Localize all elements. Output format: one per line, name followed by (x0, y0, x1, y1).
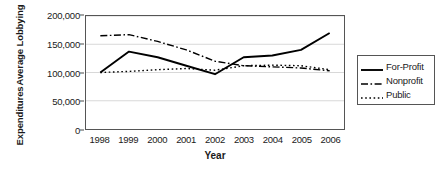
x-axis-title: Year (85, 150, 345, 161)
legend-key-dash-dot-icon (361, 75, 383, 85)
legend-item-for-profit: For-Profit (361, 59, 431, 73)
x-axis-tick-label: 2002 (205, 134, 225, 145)
legend-label: Public (386, 89, 411, 100)
x-axis-tick-label: 2001 (176, 134, 196, 145)
x-axis-tick-label: 1999 (118, 134, 138, 145)
x-axis-tick-label: 2003 (234, 134, 254, 145)
chart-legend: For-ProfitNonprofitPublic (357, 55, 435, 105)
x-axis-tick-label: 1998 (89, 134, 109, 145)
x-axis-tick-label: 2004 (263, 134, 283, 145)
legend-label: Nonprofit (386, 75, 423, 86)
legend-item-public: Public (361, 87, 431, 101)
x-axis-tick-label: 2000 (147, 134, 167, 145)
x-axis-tick-label: 2005 (292, 134, 312, 145)
x-axis-tick-label: 2006 (321, 134, 341, 145)
legend-label: For-Profit (386, 61, 424, 72)
legend-item-nonprofit: Nonprofit (361, 73, 431, 87)
legend-key-dotted-icon (361, 89, 383, 99)
legend-key-solid-icon (361, 61, 383, 71)
lobbying-expenditures-line-chart: Expenditures Average Lobbying 050,000100… (0, 0, 442, 182)
